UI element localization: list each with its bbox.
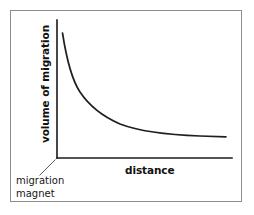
migration-magnet-annotation: migration magnet xyxy=(16,174,96,200)
distance-decay-curve xyxy=(63,33,227,137)
figure-root: volume of migration distance migration m… xyxy=(0,0,254,215)
annotation-line-2: magnet xyxy=(16,187,96,200)
annotation-line-1: migration xyxy=(16,174,96,187)
x-axis-label: distance xyxy=(125,164,175,176)
y-axis-label: volume of migration xyxy=(39,0,51,143)
